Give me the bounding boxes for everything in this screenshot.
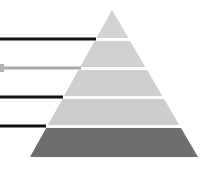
pyramid-layer-4 (48, 99, 179, 125)
pyramid-layer-1 (96, 10, 128, 38)
pyramid-layer-3 (64, 70, 162, 96)
pyramid-diagram (0, 0, 211, 171)
connector-marker-2 (0, 64, 4, 72)
pyramid-layer-2 (80, 41, 145, 67)
pyramid-layer-5 (30, 128, 198, 157)
pyramid-canvas (0, 0, 211, 171)
